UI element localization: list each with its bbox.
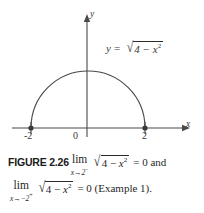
figure-caption: FIGURE 2.26 lim x→2− √ 4 − x2 = 0 and li…: [0, 150, 204, 213]
radical-sign-icon: √: [127, 41, 134, 55]
equation-radicand-exponent: 2: [158, 42, 162, 50]
caption-radicand-exponent-1: 2: [124, 156, 128, 164]
caption-line-1: FIGURE 2.26 lim x→2− √ 4 − x2 = 0 and: [8, 152, 166, 176]
equation-radical: √ 4 − x2: [126, 38, 163, 55]
x-tick-label-neg2: -2: [24, 130, 32, 141]
equation-annotation: y = √ 4 − x2: [106, 38, 163, 55]
limit-operator-1: lim x→2−: [71, 152, 89, 176]
figure-container: y x -2 0 2 y = √ 4 − x2 FIGURE 2.26: [0, 0, 204, 213]
figure-number-tag: FIGURE 2.26: [8, 152, 69, 168]
caption-radical-2: √ 4 − x2: [38, 178, 74, 195]
semicircle-curve: [31, 71, 145, 128]
equation-lhs: y: [106, 38, 111, 54]
caption-radicand-1: 4 − x2: [101, 155, 130, 169]
x-tick-label-origin: 0: [73, 130, 78, 141]
caption-tail-2: = 0 (Example 1).: [77, 178, 152, 194]
y-axis-label: y: [90, 9, 94, 19]
equation-radicand: 4 − x2: [133, 41, 163, 55]
x-tick-label-pos2: 2: [142, 130, 147, 141]
caption-radicand-exponent-2: 2: [68, 182, 72, 190]
radical-sign-icon-1: √: [94, 155, 101, 169]
caption-tail-1: = 0 and: [133, 152, 166, 168]
limit-subscript-sign-1: −: [85, 166, 88, 172]
limit-operator-2: lim x→−2+: [10, 178, 33, 202]
limit-subscript-base-2: x→−2: [10, 193, 29, 202]
caption-radicand-2: 4 − x2: [45, 181, 74, 195]
caption-radical-1: √ 4 − x2: [93, 152, 129, 169]
plot-area: y x -2 0 2 y = √ 4 − x2: [0, 0, 204, 148]
radical-sign-icon-2: √: [38, 181, 45, 195]
equation-equals-sign: =: [114, 38, 120, 54]
caption-line-2: lim x→−2+ √ 4 − x2 = 0 (Example 1).: [8, 178, 152, 202]
limit-subscript-sign-2: +: [29, 192, 32, 198]
graph-svg: [0, 0, 204, 148]
caption-radicand-prefix-2: 4 −: [46, 183, 63, 195]
caption-radicand-prefix-1: 4 −: [102, 157, 119, 169]
limit-subscript-1: x→2−: [71, 166, 89, 176]
x-axis-label: x: [186, 119, 190, 129]
equation-radicand-prefix: 4 −: [134, 43, 152, 55]
limit-subscript-2: x→−2+: [10, 192, 33, 202]
limit-subscript-base-1: x→2: [71, 167, 85, 176]
limit-word-2: lim: [14, 178, 29, 192]
limit-word-1: lim: [72, 152, 87, 166]
